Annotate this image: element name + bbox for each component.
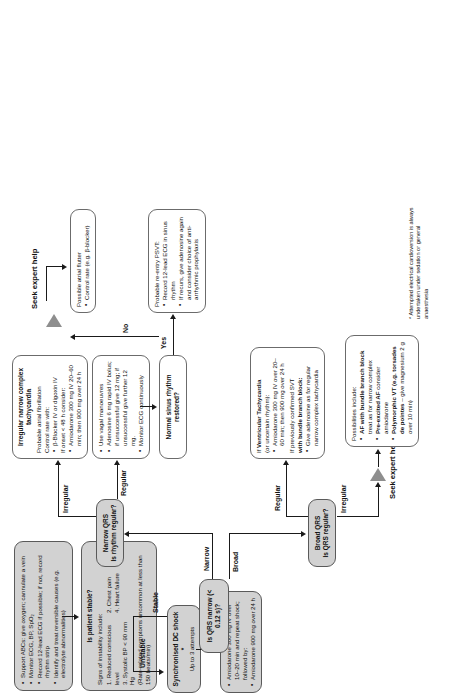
node-title: Broad QRS: [314, 504, 322, 562]
connector-broad-right: [229, 533, 230, 579]
edge-label-regular-narrow: Regular: [120, 470, 127, 496]
seek-expert-help-narrow: Seek expert help: [30, 249, 39, 309]
edge-label-irregular-broad: Irregular: [340, 485, 347, 513]
arrowhead-right: [55, 460, 61, 465]
node-sub: Is QRS regular?: [322, 504, 330, 562]
possibilities-bullets: AF with bundle branch block treat as for…: [358, 341, 414, 441]
list-item: 1. Reduced conscious level: [105, 619, 121, 685]
connector-narrow-right: [212, 533, 213, 579]
arrowhead-up: [70, 334, 75, 340]
node-sub: Is rhythm regular?: [110, 504, 118, 562]
connector-seek-right-flutter: [46, 266, 47, 301]
possibility-bold: Pre-excited AF: [374, 392, 381, 434]
connector-broad-regular-up: [286, 516, 308, 517]
psvt-bullets: Record 12-lead ECG in sinus rhythm If re…: [161, 215, 200, 307]
arrowhead-down: [62, 264, 67, 270]
connector-broad-regular-right: [286, 463, 287, 517]
connector-narrow-irregular-right: [58, 463, 59, 517]
vt-line2: (or uncertain rhythm):: [263, 353, 271, 453]
irregular-narrow-bullets-2: Amiodarone 300 mg IV 20–60 min; then 900…: [67, 361, 83, 453]
vt-line1-bold: Ventricular Tachycardia: [255, 380, 262, 448]
node-psvt: Probable re-entry PSVT: Record 12-lead E…: [148, 209, 206, 313]
node-irregular-narrow-tachycardia: Irregular narrow complex tachycardia Pro…: [12, 355, 88, 459]
connector-narrow-up: [128, 533, 213, 534]
connector-narrow-irregular-up: [58, 516, 96, 517]
node-is-qrs-narrow-real: Is QRS narrow (< 0.12 s)?: [199, 579, 229, 653]
seek-expert-help-broad: Seek expert help: [388, 439, 397, 499]
node-ventricular-tachycardia: If Ventricular Tachycardia (or uncertain…: [250, 347, 325, 459]
arrowhead-right: [170, 314, 176, 319]
flowchart-canvas: Support ABCs: give oxygen; cannulate a v…: [0, 0, 461, 699]
irregular-narrow-bullets-1: β-Blocker IV or digoxin IV: [51, 361, 59, 453]
arrowhead-right: [283, 460, 289, 465]
vt-line1-lead: If: [255, 448, 262, 453]
connector-unstable-down: [133, 671, 161, 672]
vt-bullets-2: Give adenosine as for regular narrow com…: [304, 353, 320, 453]
node-title-line1: Irregular narrow complex: [17, 361, 25, 453]
possibility-rest: treat as for narrow complex: [366, 360, 373, 434]
instability-items-col1: 1. Reduced conscious level 3. Systolic B…: [105, 619, 136, 685]
amiodarone-bullets: Amiodarone 300 mg IV over 10–20 min and …: [225, 597, 257, 687]
connector-yes-right: [173, 317, 174, 355]
vt-line3: If previously confirmed SVT: [288, 353, 296, 453]
arrowhead-down: [159, 669, 164, 675]
bullet: Monitor ECG continuously: [137, 361, 145, 446]
connector-stable-branch-left: [133, 616, 134, 672]
node-control-label: Control rate with:: [43, 361, 51, 453]
connector-narrow-regular: [117, 463, 118, 499]
node-atrial-flutter: Possible atrial flutter Control rate (e.…: [70, 209, 96, 313]
edge-label-narrow: Narrow: [203, 547, 210, 571]
bullet: Record 12-lead ECG in sinus rhythm: [161, 215, 177, 300]
arrowhead-down: [74, 614, 79, 620]
footnote-cardioversion: * Attempted electrical cardioversion is …: [408, 199, 430, 319]
bullet: Amiodarone 300 mg IV over 20–60 min; the…: [271, 353, 287, 446]
node-title: Is QRS narrow (< 0.12 s)?: [206, 584, 222, 648]
bullet: Support ABCs: give oxygen; cannulate a v…: [19, 547, 27, 678]
bullet: β-Blocker IV or digoxin IV: [51, 361, 59, 446]
vt-line1: If Ventricular Tachycardia: [255, 353, 263, 453]
bullet: Use vagal manoeuvres: [97, 361, 105, 446]
node-narrow-qrs: Narrow QRS Is rhythm regular?: [96, 499, 124, 567]
seek-help-triangle-broad: [370, 468, 386, 481]
vt-bullets: Amiodarone 300 mg IV over 20–60 min; the…: [271, 353, 287, 453]
bullet: Identify and treat reversible causes (e.…: [52, 547, 68, 678]
connector-no-up: [74, 336, 159, 337]
edge-label-irregular-narrow: Irregular: [62, 485, 69, 513]
seek-help-triangle-narrow: [46, 314, 62, 327]
arrowhead-down: [152, 404, 157, 410]
node-sinus-rhythm-restored: Normal sinus rhythm restored?: [159, 355, 187, 459]
node-possibilities: Possibilities include: AF with bundle br…: [345, 335, 419, 447]
bullet: Give adenosine as for regular narrow com…: [304, 353, 320, 446]
possibilities-heading: Possibilities include:: [350, 341, 358, 441]
arrowhead-right: [375, 449, 381, 454]
connector-broad-irregular-down: [337, 516, 379, 517]
atrial-flutter-title-text: Possible atrial flutter: [75, 252, 82, 307]
arrowhead-right: [114, 460, 120, 465]
bullet: Amiodarone 300 mg IV 20–60 min; then 900…: [67, 361, 83, 446]
connector-broad-irregular-right: [378, 485, 379, 517]
rotated-page-wrapper: Support ABCs: give oxygen; cannulate a v…: [0, 0, 461, 699]
initial-assessment-bullets: Support ABCs: give oxygen; cannulate a v…: [19, 547, 67, 685]
node-subheading: Signs of instability include:: [96, 547, 104, 685]
bullet: Amiodarone 900 mg over 24 h: [249, 597, 257, 680]
bullet: Control rate (e.g. β-blocker): [83, 215, 91, 300]
bullet: If recurs, give adenosine again and cons…: [177, 215, 200, 300]
arrowhead-right: [375, 482, 381, 487]
node-sub: Probable atrial fibrillation: [35, 361, 43, 453]
node-sub: Up to 3 attempts: [188, 611, 196, 687]
bullet: AF with bundle branch block treat as for…: [358, 341, 374, 434]
node-title: Is patient stable?: [86, 547, 94, 685]
bullet: Adenosine 6 mg rapid IV bolus; if unsucc…: [105, 361, 136, 446]
node-broad-qrs: Broad QRS Is QRS regular?: [308, 499, 336, 567]
node-title-line2: tachycardia: [25, 361, 33, 453]
bullet: Monitor ECG, BP, SpO₂: [27, 547, 35, 678]
vt-line3-bold: with bundle branch block:: [296, 378, 303, 454]
edge-label-regular-broad: Regular: [274, 485, 281, 511]
node-vagal-adenosine: Use vagal manoeuvres Adenosine 6 mg rapi…: [92, 355, 150, 459]
bullet: Record 12-lead ECG if possible; if not, …: [36, 547, 52, 678]
bullet: Polymorphic VT (e.g. torsades de pointes…: [390, 341, 413, 434]
bullet: Pre-excited AF consider amiodarone: [374, 341, 390, 434]
possibility-bold: AF with bundle branch block: [358, 351, 365, 434]
node-title: Narrow QRS: [102, 504, 110, 562]
node-onset-label: If onset < 48 h consider:: [59, 361, 67, 453]
